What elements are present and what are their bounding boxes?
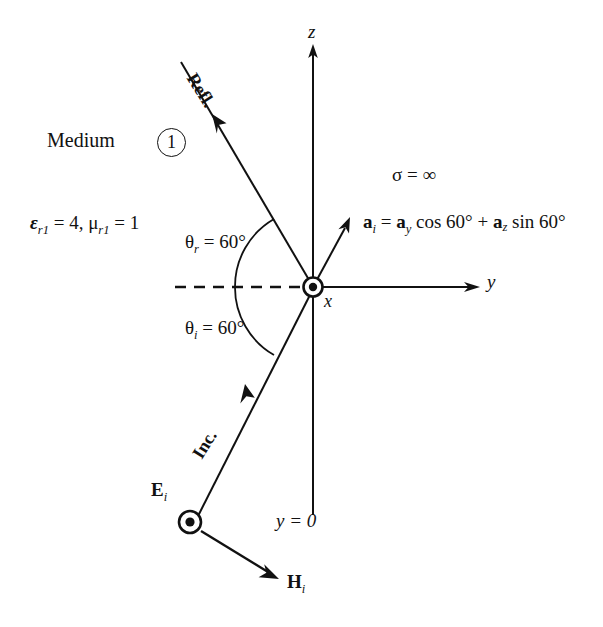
a-i-symbol: a: [363, 211, 373, 232]
theta-i-value: = 60°: [202, 317, 244, 338]
theta-i-symbol: θ: [185, 317, 194, 338]
equals-sign: =: [381, 211, 392, 232]
magnetic-field-label: Hi: [287, 572, 305, 596]
medium-number-circle: 1: [157, 128, 186, 157]
epsilon-subscript: r1: [38, 223, 49, 237]
z-axis-label: z: [308, 22, 315, 42]
reflection-angle-label: θr = 60°: [185, 232, 246, 256]
interface-plane-label: y = 0: [276, 511, 316, 531]
x-axis-label: x: [324, 292, 332, 311]
e-field-out-of-page-dot-icon: [179, 511, 201, 533]
incidence-angle-label: θi = 60°: [185, 318, 244, 342]
e-field-symbol: E: [151, 479, 164, 500]
unit-vector-arrow: [313, 217, 350, 287]
physics-diagram: Medium 1 εr1 = 4, μr1 = 1 σ = ∞ ai = ay …: [0, 0, 603, 627]
origin-out-of-page-dot-icon: [304, 278, 323, 297]
plus-sign: +: [477, 211, 488, 232]
a-i-subscript: i: [373, 222, 376, 236]
a-z-symbol: a: [493, 211, 503, 232]
e-field-subscript: i: [164, 490, 167, 504]
sine-term: sin 60°: [512, 211, 566, 232]
medium-label: Medium: [47, 130, 115, 151]
theta-r-subscript: r: [194, 242, 199, 256]
mu-symbol: μ: [88, 212, 98, 233]
y-axis-label: y: [487, 272, 495, 292]
a-y-symbol: a: [396, 211, 406, 232]
mu-subscript: r1: [98, 223, 109, 237]
theta-r-value: = 60°: [204, 231, 246, 252]
diagram-vectors: [0, 0, 603, 627]
y-axis: [313, 282, 480, 292]
cosine-term: cos 60°: [416, 211, 473, 232]
electric-field-label: Ei: [151, 480, 167, 504]
mu-value: = 1: [114, 212, 139, 233]
a-y-subscript: y: [406, 222, 412, 236]
h-field-subscript: i: [302, 582, 305, 596]
epsilon-value: = 4,: [54, 212, 84, 233]
epsilon-symbol: ε: [30, 212, 38, 233]
theta-i-subscript: i: [194, 328, 197, 342]
conductivity-label: σ = ∞: [392, 165, 436, 185]
unit-vector-equation-label: ai = ay cos 60° + az sin 60°: [363, 212, 566, 236]
a-z-subscript: z: [502, 220, 507, 234]
h-field-symbol: H: [287, 571, 302, 592]
medium-number-label: 1: [158, 129, 185, 156]
constitutive-parameters-label: εr1 = 4, μr1 = 1: [30, 213, 139, 237]
theta-r-symbol: θ: [185, 231, 194, 252]
h-field-arrow: [201, 531, 279, 579]
